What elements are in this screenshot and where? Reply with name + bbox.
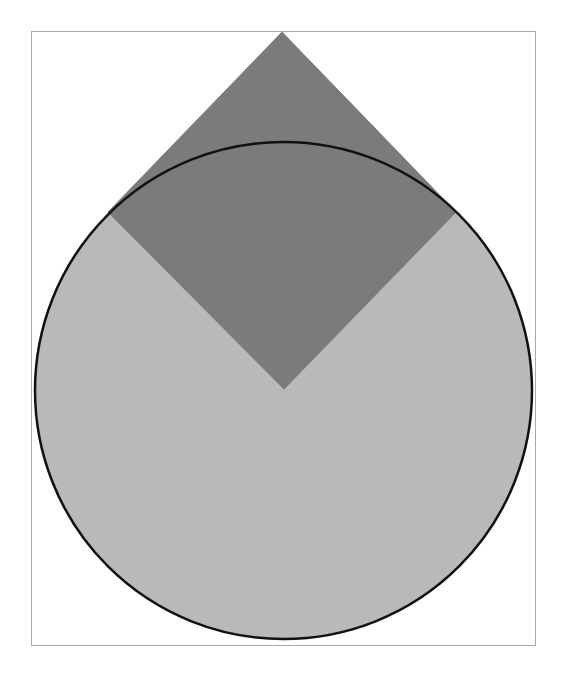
geometry-figure (0, 0, 564, 688)
